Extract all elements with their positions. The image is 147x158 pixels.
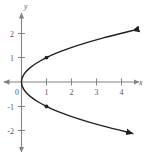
x-tick-label-1: 1 [45, 88, 49, 97]
y-tick-label-neg-2: -2 [7, 127, 14, 136]
origin-label: 0 [15, 88, 19, 97]
x-tick-label-3: 3 [95, 88, 99, 97]
y-axis: 2 1 -1 -2 y [7, 2, 28, 152]
x-axis: 1 2 3 4 x [4, 78, 143, 97]
x-tick-label-4: 4 [120, 88, 124, 97]
y-axis-label: y [23, 2, 28, 11]
curve-point-0 [45, 56, 49, 60]
y-tick-label-neg-1: -1 [7, 103, 14, 112]
x-axis-label: x [138, 78, 143, 87]
x-tick-label-2: 2 [70, 88, 74, 97]
parabola-graph-svg: 1 2 3 4 x 2 1 -1 -2 y 0 [0, 0, 147, 158]
graph-figure: 1 2 3 4 x 2 1 -1 -2 y 0 [0, 0, 147, 158]
curve-point-1 [45, 105, 49, 109]
y-tick-label-1: 1 [10, 54, 14, 63]
y-tick-label-2: 2 [10, 30, 14, 39]
